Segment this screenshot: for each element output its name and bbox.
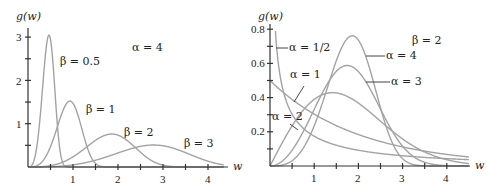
left-annotation-alpha: α = 4: [132, 41, 163, 54]
right-ylabel: g(w): [258, 10, 283, 23]
left-ytick-1: 1: [16, 118, 22, 130]
left-curve-label-beta-3: β = 3: [184, 137, 214, 150]
left-curve-label-beta-1: β = 1: [86, 103, 116, 116]
right-curve-label-alpha-3: α = 3: [391, 75, 422, 88]
curve-2: [270, 93, 469, 166]
right-xtick-1: 1: [311, 172, 317, 184]
right-ytick-0.6: 0.6: [251, 57, 265, 69]
left-xtick-4: 4: [205, 173, 211, 185]
right-ytick-0.4: 0.4: [251, 91, 265, 103]
left-ytick-3: 3: [16, 31, 22, 43]
curve-4: [270, 36, 469, 166]
left-xtick-1: 1: [70, 173, 76, 185]
right-curve-label-alpha-1: α = 1: [290, 68, 321, 81]
right-xlabel: w: [475, 159, 485, 172]
left-curve-label-beta-2: β = 2: [124, 126, 154, 139]
right-ytick-0.8: 0.8: [251, 23, 265, 35]
right-curve-label-alpha-4: α = 4: [386, 49, 417, 62]
right-xtick-3: 3: [399, 172, 405, 184]
right-xtick-2: 2: [355, 172, 361, 184]
weibull-figure: g(w) w 3 2 1 1 2 3 4 α = 4 β = 0.5 β = 1…: [0, 0, 492, 195]
left-ylabel: g(w): [16, 10, 41, 23]
left-curve-label-beta-0.5: β = 0.5: [60, 55, 100, 68]
right-curve-label-alpha-half: α = 1/2: [289, 41, 330, 54]
left-xtick-3: 3: [160, 173, 166, 185]
right-xtick-4: 4: [443, 172, 449, 184]
right-curve-label-alpha-2: α = 2: [272, 110, 303, 123]
left-chart: g(w) w 3 2 1 1 2 3 4 α = 4 β = 0.5 β = 1…: [16, 10, 243, 185]
left-ytick-2: 2: [16, 75, 22, 87]
right-annotation-beta: β = 2: [412, 34, 442, 47]
left-xlabel: w: [233, 160, 243, 173]
right-chart: g(w) w 0.8 0.6 0.4 0.2 1 2 3 4 β = 2 α =…: [251, 10, 485, 184]
left-xtick-2: 2: [115, 173, 121, 185]
leader-alpha-1: [294, 86, 304, 102]
right-ytick-0.2: 0.2: [251, 125, 265, 137]
